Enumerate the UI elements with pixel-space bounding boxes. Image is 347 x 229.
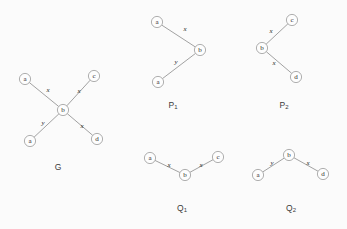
graph-node: b xyxy=(194,44,205,55)
edge-label: y xyxy=(40,119,45,127)
node-label: c xyxy=(216,153,219,161)
caption-subscript: 2 xyxy=(285,104,289,110)
graph-p2: xxcbdP2 xyxy=(256,14,301,110)
node-label: d xyxy=(321,170,325,178)
node-label: b xyxy=(260,44,264,52)
edge-p1-p1-a-bottom-p1-b xyxy=(162,53,195,78)
graph-node: a xyxy=(152,76,163,87)
node-label: d xyxy=(294,73,298,81)
graph-node: c xyxy=(212,151,223,162)
graph-caption-q2: Q2 xyxy=(286,203,297,213)
edge-label: y xyxy=(173,58,178,66)
graph-figure: xxyxacbadGxyabaP1xxcbdP2xxacbQ1yxbadQ2 xyxy=(0,0,347,229)
edge-g-g-a-bottom-g-b xyxy=(34,114,59,137)
graph-node: a xyxy=(252,169,263,180)
node-label: b xyxy=(61,106,65,114)
graph-caption-q1: Q1 xyxy=(177,203,188,213)
graph-node: b xyxy=(256,42,267,53)
graph-q1: xxacbQ1 xyxy=(144,151,223,213)
node-label: c xyxy=(290,16,293,24)
edge-label: y xyxy=(269,159,274,167)
node-label: b xyxy=(198,46,202,54)
graph-caption-p1: P1 xyxy=(168,100,178,110)
graph-node: b xyxy=(179,169,190,180)
node-label: b xyxy=(183,171,187,179)
node-label: b xyxy=(287,151,291,159)
graph-node: c xyxy=(88,70,99,81)
edge-g-g-a-top-g-b xyxy=(29,83,58,107)
graph-q2: yxbadQ2 xyxy=(252,149,328,213)
graph-node: d xyxy=(91,133,102,144)
graph-node: b xyxy=(283,149,294,160)
graph-caption-p2: P2 xyxy=(279,100,289,110)
edge-label: x xyxy=(79,122,84,130)
graph-node: b xyxy=(57,104,68,115)
edge-p1-p1-a-top-p1-b xyxy=(162,25,196,47)
graph-diagram-canvas: xxyxacbadGxyabaP1xxcbdP2xxacbQ1yxbadQ2 xyxy=(0,0,347,229)
caption-subscript: 2 xyxy=(293,207,297,213)
caption-subscript: 1 xyxy=(174,104,178,110)
node-label: d xyxy=(95,135,99,143)
graph-g: xxyxacbadG xyxy=(19,70,102,172)
graph-node: a xyxy=(151,16,162,27)
node-label: c xyxy=(92,72,95,80)
edge-p2-p2-d-p2-b xyxy=(266,52,291,74)
graph-node: a xyxy=(24,135,35,146)
graph-p1: xyabaP1 xyxy=(151,16,205,110)
caption-base: G xyxy=(55,162,62,172)
edge-label: x xyxy=(182,25,187,33)
edge-label: x xyxy=(268,27,273,35)
graph-node: d xyxy=(317,168,328,179)
caption-subscript: 1 xyxy=(184,207,188,213)
graph-node: a xyxy=(19,73,30,84)
edge-label: x xyxy=(305,159,310,167)
graph-node: a xyxy=(144,152,155,163)
graph-node: d xyxy=(290,71,301,82)
graph-caption-g: G xyxy=(55,162,62,172)
graph-node: c xyxy=(286,14,297,25)
edge-label: x xyxy=(45,86,50,94)
